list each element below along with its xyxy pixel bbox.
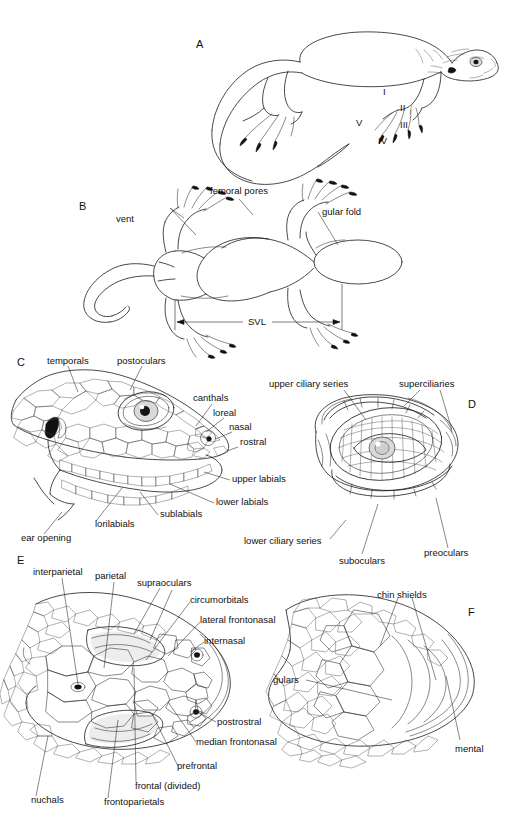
label-supraoculars: supraoculars [137,578,191,588]
label-temporals: temporals [47,356,89,366]
label-suboculars: suboculars [339,556,385,566]
label-gular-fold: gular fold [322,207,361,217]
label-prefrontal: prefrontal [177,761,217,771]
panel-d-drawing [315,395,458,499]
label-lateral-frontonasal: lateral frontonasal [200,615,276,625]
label-lorilabials: lorilabials [95,519,135,529]
label-gulars: gulars [273,675,299,685]
label-lower-labials: lower labials [216,497,268,507]
label-digit-v: V [356,118,362,128]
label-interparietal: interparietal [33,567,83,577]
panel-letter-e: E [17,554,24,566]
label-vent: vent [116,214,134,224]
label-upper-labials: upper labials [232,474,286,484]
label-frontal-divided: frontal (divided) [135,781,200,791]
label-svl: SVL [248,317,266,327]
label-nuchals: nuchals [31,795,64,805]
label-chin-shields: chin shields [377,590,427,600]
figure-lineart [0,0,510,833]
figure-plate: A I II III IV V B femoral pores vent gul… [0,0,510,833]
label-digit-iii: III [400,120,408,130]
label-postrostral: postrostral [217,717,261,727]
panel-letter-f: F [468,606,475,618]
label-digit-i: I [383,87,386,97]
label-femoral-pores: femoral pores [210,186,268,196]
label-ear-opening: ear opening [21,533,71,543]
label-lower-ciliary-series: lower ciliary series [244,536,322,546]
label-postoculars: postoculars [117,356,166,366]
label-mental: mental [455,744,484,754]
label-digit-iv: IV [378,136,387,146]
label-superciliaries: superciliaries [399,379,454,389]
label-loreal: loreal [213,408,236,418]
panel-letter-d: D [468,398,476,410]
label-rostral: rostral [240,437,266,447]
label-digit-ii: II [400,103,405,113]
panel-letter-b: B [79,200,86,212]
label-parietal: parietal [95,571,126,581]
label-nasal: nasal [229,422,252,432]
label-preoculars: preoculars [424,548,468,558]
label-canthals: canthals [193,393,228,403]
label-circumorbitals: circumorbitals [190,595,249,605]
label-upper-ciliary-series: upper ciliary series [269,379,348,389]
panel-letter-c: C [17,356,25,368]
label-internasal: internasal [204,636,245,646]
label-sublabials: sublabials [160,509,202,519]
label-median-frontonasal: median frontonasal [196,737,277,747]
label-frontoparietals: frontoparietals [104,797,164,807]
panel-letter-a: A [196,38,203,50]
panel-a-drawing [212,32,499,185]
